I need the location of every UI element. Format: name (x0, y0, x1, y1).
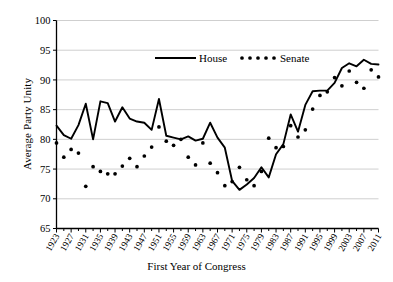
svg-text:2007: 2007 (351, 232, 369, 253)
svg-text:75: 75 (40, 164, 51, 175)
x-axis-tick-labels: 1923192719311935193919431947195119551959… (43, 232, 383, 253)
svg-text:95: 95 (40, 45, 51, 56)
svg-text:1947: 1947 (131, 232, 149, 253)
svg-text:1923: 1923 (43, 232, 61, 253)
series-line-house (57, 60, 379, 190)
svg-text:1931: 1931 (73, 232, 91, 253)
svg-text:70: 70 (40, 193, 51, 204)
svg-text:1963: 1963 (190, 232, 208, 253)
svg-text:80: 80 (40, 134, 51, 145)
svg-text:65: 65 (40, 223, 51, 234)
svg-text:1955: 1955 (161, 232, 179, 253)
svg-text:2011: 2011 (366, 232, 384, 253)
legend-label-senate: Senate (280, 52, 309, 64)
svg-text:2003: 2003 (336, 232, 354, 253)
svg-text:1951: 1951 (146, 232, 164, 253)
svg-text:100: 100 (35, 15, 51, 26)
svg-text:1979: 1979 (248, 232, 266, 253)
party-unity-chart: 65707580859095100 1923192719311935193919… (0, 0, 393, 282)
svg-text:1959: 1959 (175, 232, 193, 253)
y-axis-title: Average Party Unity (21, 44, 33, 204)
svg-text:1927: 1927 (58, 232, 76, 253)
svg-text:85: 85 (40, 104, 51, 115)
svg-text:1967: 1967 (204, 232, 222, 253)
svg-text:1995: 1995 (307, 232, 325, 253)
svg-text:1939: 1939 (102, 232, 120, 253)
svg-text:90: 90 (40, 75, 51, 86)
chart-plot-area: 65707580859095100 1923192719311935193919… (0, 0, 393, 282)
svg-text:1971: 1971 (219, 232, 237, 253)
svg-text:1935: 1935 (87, 232, 105, 253)
svg-text:1943: 1943 (117, 232, 135, 253)
legend-markers: HouseSenate (155, 52, 309, 64)
svg-text:1987: 1987 (278, 232, 296, 253)
x-axis-title: First Year of Congress (0, 260, 393, 272)
svg-text:1991: 1991 (292, 232, 310, 253)
legend-label-house: House (199, 52, 227, 64)
y-axis-tick-labels: 65707580859095100 (35, 15, 51, 234)
svg-text:1983: 1983 (263, 232, 281, 253)
svg-text:1999: 1999 (322, 232, 340, 253)
svg-text:1975: 1975 (234, 232, 252, 253)
